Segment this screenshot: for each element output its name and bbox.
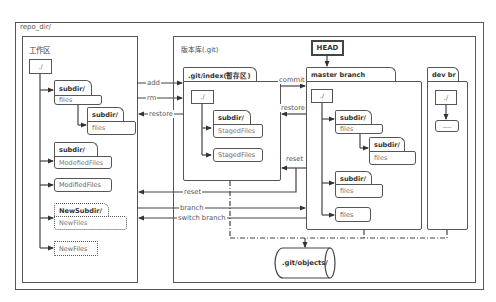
reset-to-work-arrow-label: reset — [183, 188, 202, 196]
head-pointer[interactable]: HEAD — [311, 40, 344, 56]
master-subdir-1-files[interactable]: files — [335, 124, 383, 134]
master-root-dir[interactable]: ./ — [311, 89, 333, 103]
work-subdir-1-tab[interactable]: subdir/ — [54, 80, 92, 96]
master-subdir-2-tab[interactable]: subdir/ — [369, 137, 405, 152]
master-subdir-2-files[interactable]: files — [369, 151, 416, 165]
index-subdir-tab[interactable]: subdir/ — [213, 110, 251, 125]
dev-root-dir[interactable]: ./ — [435, 90, 457, 105]
master-subdir-3-tab[interactable]: subdir/ — [335, 171, 372, 185]
switch-branch-arrow-label: switch branch — [177, 214, 227, 222]
commit-arrow-label: commit — [278, 76, 306, 84]
index-root-dir[interactable]: ./ — [191, 90, 214, 104]
dev-placeholder[interactable]: ---- — [435, 120, 459, 132]
index-staged-files[interactable]: StagedFiles — [213, 148, 263, 162]
add-arrow-label: add — [146, 79, 161, 87]
rm-arrow-label: rm — [146, 94, 157, 102]
work-subdir-2-files[interactable]: files — [87, 121, 136, 135]
work-root-dir[interactable]: ./ — [29, 59, 52, 74]
work-subdir-2-tab[interactable]: subdir/ — [87, 107, 124, 122]
restore-to-index-arrow-label: restore — [280, 104, 306, 112]
work-subdir-3-tab[interactable]: subdir/ — [54, 142, 98, 157]
master-files[interactable]: files — [335, 207, 371, 222]
work-new-files[interactable]: NewFiles — [54, 241, 98, 256]
branch-arrow-label: branch — [179, 204, 205, 212]
work-subdir-3-modified-files[interactable]: ModefiedFiles — [54, 156, 112, 169]
index-subdir-staged-files[interactable]: StagedFiles — [213, 124, 263, 138]
master-subdir-1-tab[interactable]: subdir/ — [335, 110, 372, 125]
work-new-subdir-tab[interactable]: NewSubdir/ — [54, 203, 109, 217]
work-modified-files[interactable]: ModifiedFiles — [54, 178, 112, 192]
reset-to-index-arrow-label: reset — [285, 155, 304, 163]
git-objects-database[interactable]: .git/objects/ — [282, 259, 328, 267]
work-subdir-1-files[interactable]: files — [54, 95, 102, 105]
restore-to-work-arrow-label: restore — [148, 110, 174, 118]
master-subdir-3-files[interactable]: files — [335, 184, 383, 198]
work-new-subdir-files[interactable]: NewFiles — [54, 216, 127, 230]
